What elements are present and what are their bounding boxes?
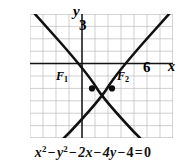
eq-right-hand-side: 0 [144,145,151,160]
eq-operator-1: − [47,145,57,160]
eq-term4: 4y [103,145,117,160]
focus-point-f1 [89,85,95,91]
equation-caption: x2−y2−2x−4y−4=0 [0,144,186,161]
eq-operator-3: − [93,145,103,160]
hyperbola-figure: y x 3 6 F1 F2 x2−y2−2x−4y−4=0 [0,0,186,168]
x-tick-label-6: 6 [143,60,151,75]
eq-term5: 4 [127,145,134,160]
focus-label-f1-letter: F [56,69,64,83]
focus-label-f1-subscript: 1 [64,75,68,84]
focus-label-f2-letter: F [117,69,125,83]
eq-operator-2: − [68,145,78,160]
plot-area [30,14,173,138]
eq-term1-exponent: 2 [42,144,47,154]
x-axis-label: x [168,60,175,74]
y-tick-label-3: 3 [79,18,87,33]
focus-point-f2 [109,85,115,91]
focus-label-f1: F1 [56,70,68,84]
eq-operator-4: − [116,145,126,160]
focus-label-f2: F2 [117,70,129,84]
eq-term3: 2x [78,145,92,160]
eq-term1-base: x [35,145,42,160]
eq-equals-sign: = [134,145,144,160]
graph-canvas [30,14,173,138]
focus-label-f2-subscript: 2 [125,75,129,84]
